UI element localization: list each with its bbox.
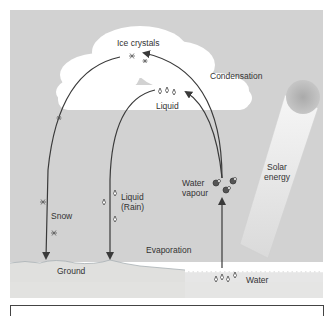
caption-box	[10, 305, 324, 316]
label-condensation: Condensation	[210, 71, 262, 81]
label-liquid-rain-1: Liquid	[121, 192, 144, 202]
raindrop-icon	[227, 276, 230, 282]
raindrop-icon	[114, 190, 117, 196]
label-water-vapour-1: Water	[182, 178, 204, 188]
raindrop-icon	[234, 272, 237, 278]
sun-icon	[286, 80, 320, 114]
label-solar-energy-2: energy	[262, 172, 292, 182]
raindrop-icon	[215, 276, 218, 282]
raindrop-icon	[103, 199, 106, 205]
label-snow: Snow	[51, 211, 72, 221]
raindrop-icon	[166, 87, 169, 93]
raindrop-icon	[159, 88, 162, 94]
raindrop-icon	[114, 216, 117, 222]
label-evaporation: Evaporation	[146, 245, 191, 255]
label-water: Water	[246, 275, 268, 285]
label-liquid-rain-2: (Rain)	[121, 202, 144, 212]
label-liquid-cloud: Liquid	[156, 101, 179, 111]
label-solar-energy-1: Solar	[262, 162, 292, 172]
label-ice-crystals: Ice crystals	[117, 38, 160, 48]
raindrop-icon	[173, 89, 176, 95]
label-ground: Ground	[57, 266, 85, 276]
label-water-vapour-2: vapour	[182, 188, 208, 198]
raindrop-icon	[221, 274, 224, 280]
